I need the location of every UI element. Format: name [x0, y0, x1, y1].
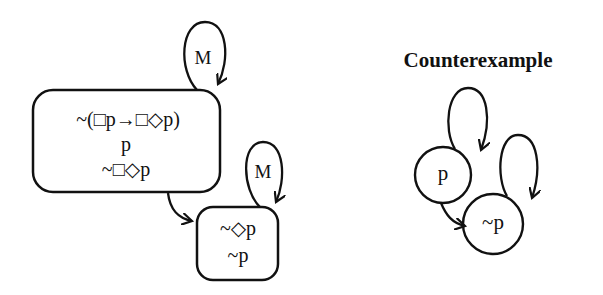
- node-not-p-label: ~p: [482, 212, 504, 233]
- counterexample-title: Counterexample: [404, 50, 553, 71]
- reflexive-loop-not-p: [500, 135, 537, 198]
- world-1-loop-label: M: [195, 48, 212, 67]
- world-2-loop-label: M: [255, 162, 272, 181]
- world-2-formula-1: ~◇p: [220, 218, 256, 238]
- access-arrow-p-not-p: [441, 203, 465, 226]
- diagram-canvas: [0, 0, 603, 295]
- world-1-formula-1: ~(□p→□◇p): [76, 109, 180, 129]
- access-arrow-1-2: [168, 193, 192, 221]
- reflexive-loop-p: [448, 88, 487, 150]
- world-2-formula-2: ~p: [228, 245, 249, 265]
- world-1-formula-2: p: [121, 134, 131, 154]
- world-1-formula-3: ~□◇p: [102, 159, 150, 179]
- node-p-label: p: [438, 163, 449, 184]
